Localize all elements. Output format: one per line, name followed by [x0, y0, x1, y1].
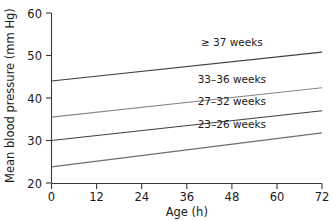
y-axis-title: Mean blood pressure (mm Hg)	[3, 8, 17, 183]
y-tick-label-50: 50	[27, 49, 42, 63]
chart-figure: Mean blood pressure (mm Hg) 60 50 40 30 …	[0, 0, 332, 221]
series-line-3	[52, 133, 323, 167]
x-tick-label-48: 48	[225, 190, 240, 204]
series-label-27-32-weeks: 27–32 weeks	[198, 95, 266, 107]
series-label-33-36-weeks: 33–36 weeks	[198, 73, 266, 85]
series-line-1	[52, 88, 323, 117]
y-tick-label-20: 20	[27, 177, 42, 191]
series-label-23-26-weeks: 23–26 weeks	[198, 118, 266, 130]
x-tick-label-72: 72	[315, 190, 330, 204]
x-tick-label-12: 12	[89, 190, 104, 204]
line-chart: Mean blood pressure (mm Hg) 60 50 40 30 …	[0, 0, 332, 221]
series-labels: ≥ 37 weeks 33–36 weeks 27–32 weeks 23–26…	[198, 36, 266, 130]
y-tick-label-30: 30	[27, 134, 42, 148]
y-tick-label-40: 40	[27, 92, 42, 106]
x-tick-label-36: 36	[179, 190, 194, 204]
series-lines	[52, 52, 323, 167]
series-line-2	[52, 111, 323, 141]
x-tick-label-0: 0	[48, 190, 55, 204]
y-tick-label-60: 60	[27, 7, 42, 21]
x-axis-title: Age (h)	[166, 205, 208, 219]
x-tick-label-24: 24	[134, 190, 149, 204]
y-axis-ticks: 60 50 40 30 20	[27, 7, 51, 191]
series-line-0	[52, 52, 323, 81]
series-label-37-weeks: ≥ 37 weeks	[201, 36, 263, 48]
x-tick-label-60: 60	[270, 190, 285, 204]
x-axis-ticks: 0 12 24 36 48 60 72	[48, 184, 329, 205]
